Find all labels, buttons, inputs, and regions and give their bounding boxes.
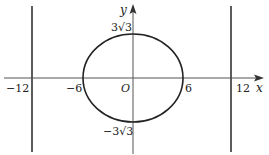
tick-x-neg-6: −6: [66, 82, 82, 95]
tick-y-neg: −3√3: [103, 125, 133, 138]
y-axis-label: y: [119, 3, 127, 17]
origin-label: O: [121, 82, 130, 95]
x-axis-label: x: [256, 81, 263, 95]
tick-x-pos-12: 12: [236, 82, 250, 95]
tick-y-pos: 3√3: [111, 21, 132, 34]
tick-x-neg-12: −12: [6, 82, 29, 95]
ellipse-diagram: x y O −12 −6 6 12 3√3 −3√3: [0, 0, 269, 155]
tick-x-pos-6: 6: [185, 82, 192, 95]
